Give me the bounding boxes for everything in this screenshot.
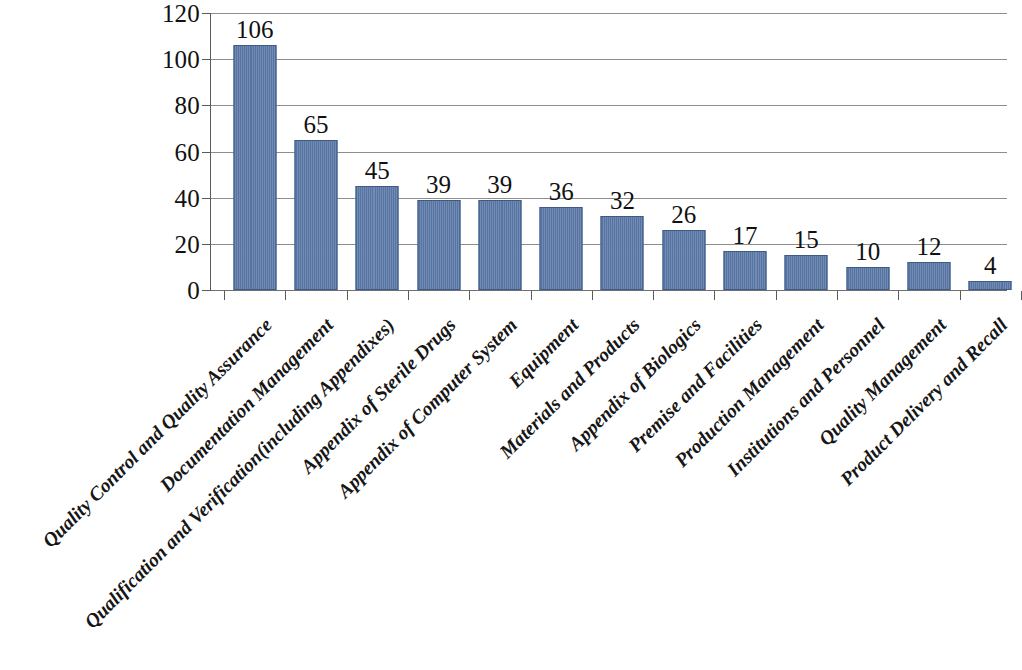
bar-value-label: 106 [236,17,274,42]
bar[interactable] [662,230,705,290]
category-label: Quality Control and Quality Assurance [39,315,275,551]
x-tick-mark [592,291,593,300]
bar[interactable] [356,186,399,290]
y-tick-mark-80 [202,105,210,106]
x-tick-mark [653,291,654,300]
bar-value-label: 10 [855,239,880,264]
x-tick-mark [531,291,532,300]
x-tick-mark [960,291,961,300]
y-tick-label-40: 40 [148,186,200,211]
bar[interactable] [233,45,276,290]
bar-value-label: 17 [733,223,758,248]
x-tick-mark [714,291,715,300]
bar[interactable] [846,267,889,290]
x-tick-mark [224,291,225,300]
bar-value-label: 39 [426,172,451,197]
bar[interactable] [478,200,521,290]
bar-value-label: 26 [671,202,696,227]
bar-slot [285,13,346,290]
bar-value-label: 32 [610,188,635,213]
bar[interactable] [969,281,1012,290]
x-tick-mark [285,291,286,300]
x-tick-mark [898,291,899,300]
bar[interactable] [724,251,767,290]
bar-slot [592,13,653,290]
bar-slot [653,13,714,290]
y-tick-mark-0 [202,290,210,291]
bar-slot [531,13,592,290]
x-tick-mark [469,291,470,300]
y-tick-label-60: 60 [148,140,200,165]
x-tick-mark [408,291,409,300]
y-tick-label-0: 0 [148,278,200,303]
bars-group: 10665453939363226171510124 [210,13,1007,290]
bar-slot [224,13,285,290]
y-tick-label-20: 20 [148,232,200,257]
x-tick-mark [347,291,348,300]
bar-value-label: 15 [794,227,819,252]
bar-value-label: 39 [487,172,512,197]
y-tick-mark-100 [202,59,210,60]
bar[interactable] [294,140,337,290]
x-tick-mark [837,291,838,300]
bar-value-label: 12 [916,234,941,259]
y-tick-mark-20 [202,244,210,245]
bar[interactable] [601,216,644,290]
bar[interactable] [785,255,828,290]
bar-slot [469,13,530,290]
bar-value-label: 65 [303,112,328,137]
bar[interactable] [417,200,460,290]
bar-value-label: 36 [549,179,574,204]
bar-slot [408,13,469,290]
y-tick-label-120: 120 [148,1,200,26]
y-tick-label-100: 100 [148,47,200,72]
y-tick-label-80: 80 [148,93,200,118]
y-tick-mark-120 [202,13,210,14]
bar-slot [347,13,408,290]
bar-slot [960,13,1021,290]
bar[interactable] [907,262,950,290]
y-tick-mark-40 [202,198,210,199]
bar[interactable] [540,207,583,290]
bar-value-label: 4 [984,253,997,278]
x-tick-mark [776,291,777,300]
y-tick-mark-60 [202,152,210,153]
bar-value-label: 45 [365,158,390,183]
gridline-0 [210,290,1007,291]
